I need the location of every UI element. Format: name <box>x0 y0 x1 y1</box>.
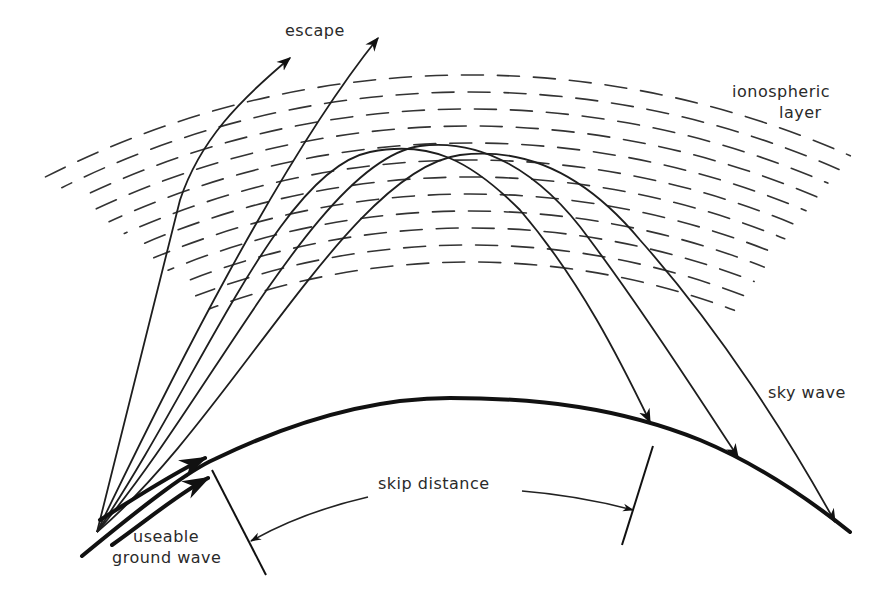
ground-wave-label: ground wave <box>112 548 221 567</box>
ionosphere-dash-row <box>209 262 734 310</box>
escape-ray-1 <box>97 58 290 532</box>
useable-label: useable <box>133 527 199 546</box>
ionosphere-dash-row <box>62 92 839 188</box>
ionosphere-dash-row <box>78 109 828 199</box>
ionospheric-layer-label-line2: layer <box>779 103 822 122</box>
skip-distance-label: skip distance <box>378 474 490 493</box>
skip-distance-arrow-left <box>251 497 368 541</box>
sky-wave-label: sky wave <box>768 383 846 402</box>
escape-ray-2 <box>97 38 378 532</box>
skip-distance-arrow-right <box>522 491 633 510</box>
ionospheric-layer-label-line1: ionospheric <box>732 82 830 101</box>
ionosphere-dash-row <box>94 126 817 210</box>
ionosphere-dash-row <box>124 160 795 233</box>
skip-distance-end-marker <box>622 446 653 545</box>
ionospheric-layer <box>46 75 851 310</box>
escape-rays <box>97 38 378 532</box>
ionosphere-dash-row <box>139 177 785 246</box>
escape-label: escape <box>285 21 345 40</box>
